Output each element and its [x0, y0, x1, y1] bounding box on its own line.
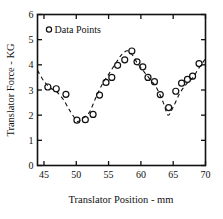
y-tick-label: 1 [29, 135, 34, 146]
y-tick-label: 0 [29, 160, 34, 171]
x-tick-label: 55 [104, 169, 114, 180]
x-tick-label: 45 [39, 169, 49, 180]
x-tick-label: 50 [71, 169, 81, 180]
y-tick-label: 4 [29, 59, 34, 70]
legend-label: Data Points [55, 24, 101, 35]
x-tick-label: 60 [136, 169, 146, 180]
chart-figure: 455055606570 0123456 Data Points Transla… [0, 0, 223, 219]
y-tick-label: 2 [29, 110, 34, 121]
y-tick-label: 5 [29, 34, 34, 45]
y-tick-label: 6 [29, 9, 34, 20]
y-axis-title: Translator Force - KG [5, 43, 16, 137]
x-axis-title: Translator Position - mm [69, 194, 174, 205]
x-tick-label: 70 [201, 169, 211, 180]
chart-legend: Data Points [46, 24, 101, 35]
y-tick-label: 3 [29, 85, 34, 96]
x-tick-label: 65 [168, 169, 178, 180]
translator-force-scatter-chart: 455055606570 0123456 Data Points Transla… [0, 0, 223, 219]
